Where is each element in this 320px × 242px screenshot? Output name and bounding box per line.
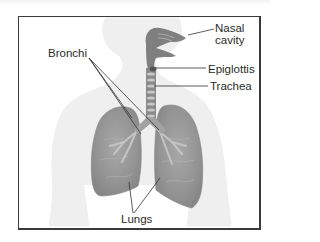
label-nasal-cavity-line2: cavity [215, 34, 244, 46]
trachea-tube [146, 68, 156, 120]
label-nasal-cavity-line1: Nasal [215, 22, 244, 34]
label-nasal-cavity: Nasal cavity [215, 22, 244, 46]
label-bronchi: Bronchi [48, 47, 87, 59]
epiglottis-mark [150, 67, 157, 72]
label-trachea: Trachea [210, 80, 252, 92]
label-epiglottis: Epiglottis [208, 63, 255, 75]
label-lungs: Lungs [121, 213, 152, 225]
